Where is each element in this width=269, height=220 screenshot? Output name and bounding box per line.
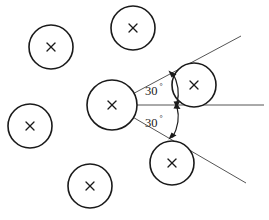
angle-label-lower-degree: ° (160, 114, 163, 123)
circle-top (111, 6, 155, 50)
circle-right-lower (150, 141, 194, 185)
angle-label-upper-degree: ° (160, 82, 163, 91)
circle-right-upper (172, 63, 216, 107)
angle-label-upper: 30 (145, 84, 158, 98)
angle-label-lower: 30 (145, 116, 158, 130)
circle-top-left (29, 25, 73, 69)
circle-center (87, 80, 137, 130)
circle-bottom (68, 164, 112, 208)
circle-left (8, 104, 52, 148)
geometry-diagram: 30 ° 30 ° (0, 0, 269, 220)
